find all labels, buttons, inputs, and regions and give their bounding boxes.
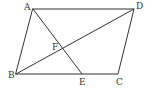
label-d: D [136,1,143,11]
label-e: E [79,77,86,87]
label-a: A [23,2,31,12]
label-b: B [8,70,15,80]
geometry-figure: A D F B E C [0,0,156,91]
label-c: C [116,77,123,87]
label-f: F [52,42,58,52]
